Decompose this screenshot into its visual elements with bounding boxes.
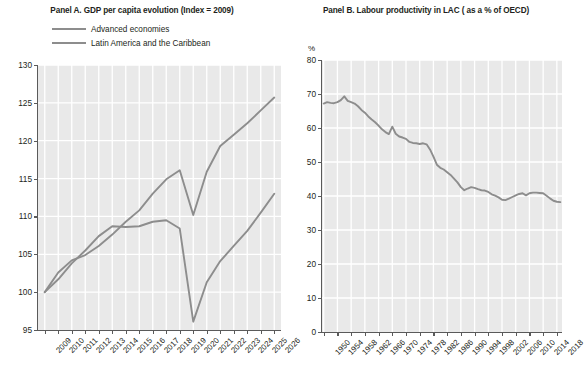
x-axis-tick-mark — [220, 330, 221, 334]
panel-b-plot-area — [322, 60, 562, 332]
x-axis-line — [37, 330, 281, 331]
x-axis-tick-mark — [193, 330, 194, 334]
y-axis-tick-label: 60 — [292, 123, 316, 133]
y-axis-tick-label: 100 — [8, 287, 32, 297]
y-axis-tick-mark — [318, 332, 322, 333]
x-axis-tick-mark — [153, 330, 154, 334]
x-axis-tick-mark — [337, 332, 338, 336]
y-axis-tick-mark — [34, 216, 38, 217]
y-axis-tick-mark — [34, 103, 38, 104]
x-axis-tick-mark — [529, 332, 530, 336]
y-axis-tick-mark — [318, 196, 322, 197]
y-axis-tick-mark — [318, 128, 322, 129]
y-axis-tick-label: 120 — [8, 136, 32, 146]
y-axis-tick-label: 110 — [8, 211, 32, 221]
panel-a-legend: Advanced economies Latin America and the… — [52, 22, 282, 50]
x-axis-tick-mark — [461, 332, 462, 336]
x-axis-tick-mark — [166, 330, 167, 334]
x-axis-tick-mark — [207, 330, 208, 334]
y-axis-tick-label: 30 — [292, 225, 316, 235]
y-axis-tick-mark — [34, 254, 38, 255]
x-axis-tick-mark — [261, 330, 262, 334]
x-axis-tick-mark — [557, 332, 558, 336]
data-line-series-0 — [45, 98, 275, 293]
y-axis-tick-mark — [34, 330, 38, 331]
y-axis-tick-label: 80 — [292, 55, 316, 65]
y-axis-tick-mark — [318, 94, 322, 95]
x-axis-tick-mark — [433, 332, 434, 336]
x-axis-tick-mark — [543, 332, 544, 336]
legend-label: Advanced economies — [91, 25, 169, 34]
legend-item-latin-america-caribbean: Latin America and the Caribbean — [52, 36, 282, 50]
y-axis-tick-label: 130 — [8, 60, 32, 70]
x-axis-tick-mark — [45, 330, 46, 334]
y-axis-tick-label: 40 — [292, 191, 316, 201]
x-axis-tick-mark — [247, 330, 248, 334]
x-axis-tick-mark — [85, 330, 86, 334]
x-axis-tick-mark — [475, 332, 476, 336]
x-axis-tick-mark — [72, 330, 73, 334]
x-axis-tick-mark — [324, 332, 325, 336]
y-axis-tick-mark — [34, 65, 38, 66]
x-axis-line — [321, 332, 562, 333]
y-axis-tick-label: 10 — [292, 293, 316, 303]
panel-a-title: Panel A. GDP per capita evolution (Index… — [0, 5, 284, 16]
panel-b-title: Panel B. Labour productivity in LAC ( as… — [284, 5, 568, 16]
x-axis-tick-mark — [126, 330, 127, 334]
x-axis-tick-mark — [139, 330, 140, 334]
x-axis-tick-mark — [488, 332, 489, 336]
x-axis-tick-mark — [99, 330, 100, 334]
panel-b: Panel B. Labour productivity in LAC ( as… — [284, 0, 568, 370]
y-axis-tick-label: 105 — [8, 249, 32, 259]
y-axis-tick-mark — [34, 179, 38, 180]
panel-a-svg — [38, 65, 281, 330]
y-axis-tick-label: 95 — [8, 325, 32, 335]
y-axis-tick-mark — [318, 60, 322, 61]
panel-a-plot-area — [38, 65, 281, 330]
y-axis-tick-mark — [318, 162, 322, 163]
data-line-series-0 — [324, 96, 561, 202]
x-axis-tick-mark — [180, 330, 181, 334]
x-axis-tick-mark — [420, 332, 421, 336]
y-axis-tick-label: 20 — [292, 259, 316, 269]
y-axis-tick-label: 115 — [8, 174, 32, 184]
x-axis-tick-mark — [447, 332, 448, 336]
y-axis-tick-mark — [318, 230, 322, 231]
y-axis-tick-mark — [318, 298, 322, 299]
x-axis-tick-mark — [379, 332, 380, 336]
y-axis-tick-label: 50 — [292, 157, 316, 167]
x-axis-tick-mark — [406, 332, 407, 336]
y-axis-tick-label: 0 — [292, 327, 316, 337]
legend-label: Latin America and the Caribbean — [91, 39, 210, 48]
y-axis-tick-mark — [34, 141, 38, 142]
x-axis-tick-mark — [365, 332, 366, 336]
panel-b-svg — [322, 60, 562, 332]
y-axis-tick-mark — [318, 264, 322, 265]
legend-line-icon — [52, 28, 86, 30]
legend-line-icon — [52, 42, 86, 44]
legend-item-advanced-economies: Advanced economies — [52, 22, 282, 36]
panel-b-unit-label: % — [308, 44, 315, 53]
panel-a: Panel A. GDP per capita evolution (Index… — [0, 0, 284, 370]
y-axis-tick-label: 125 — [8, 98, 32, 108]
x-axis-tick-mark — [502, 332, 503, 336]
y-axis-tick-mark — [34, 292, 38, 293]
x-axis-tick-mark — [234, 330, 235, 334]
x-axis-tick-mark — [274, 330, 275, 334]
x-axis-tick-mark — [392, 332, 393, 336]
x-axis-tick-mark — [516, 332, 517, 336]
x-axis-tick-mark — [58, 330, 59, 334]
y-axis-line — [37, 65, 38, 330]
y-axis-tick-label: 70 — [292, 89, 316, 99]
x-axis-tick-mark — [351, 332, 352, 336]
x-axis-tick-mark — [112, 330, 113, 334]
